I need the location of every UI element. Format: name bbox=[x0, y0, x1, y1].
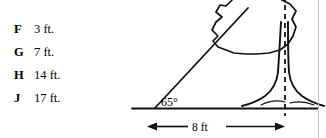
answer-choices-list: F3 ft. G7 ft. H14 ft. J17 ft. bbox=[0, 0, 150, 138]
answer-choice-letter: H bbox=[14, 67, 34, 83]
tree-root-base-detail-right bbox=[290, 102, 314, 105]
answer-choice-h[interactable]: H14 ft. bbox=[14, 66, 60, 82]
line-of-sight bbox=[155, 8, 248, 108]
answer-choice-letter: J bbox=[14, 90, 34, 106]
answer-choice-letter: G bbox=[14, 44, 34, 60]
answer-choice-value: 3 ft. bbox=[34, 21, 54, 37]
tree-root-base-detail bbox=[261, 101, 285, 105]
tree-canopy-icon bbox=[212, 0, 296, 54]
page-border-line bbox=[318, 0, 319, 138]
answer-choice-g[interactable]: G7 ft. bbox=[14, 43, 54, 59]
answer-choice-value: 14 ft. bbox=[34, 67, 60, 83]
answer-choice-value: 7 ft. bbox=[34, 44, 54, 60]
base-dimension-arrow bbox=[147, 123, 285, 131]
base-length-label: 8 ft bbox=[192, 121, 208, 133]
tree-trunk-left-edge bbox=[242, 22, 281, 106]
answer-choice-j[interactable]: J17 ft. bbox=[14, 89, 60, 105]
answer-choice-f[interactable]: F3 ft. bbox=[14, 20, 54, 36]
angle-label: 65° bbox=[161, 95, 178, 109]
problem-figure: F3 ft. G7 ft. H14 ft. J17 ft. bbox=[0, 0, 326, 138]
answer-choice-value: 17 ft. bbox=[34, 90, 60, 106]
tree-angle-diagram: 65° 8 ft bbox=[130, 0, 326, 138]
answer-choice-letter: F bbox=[14, 21, 34, 37]
